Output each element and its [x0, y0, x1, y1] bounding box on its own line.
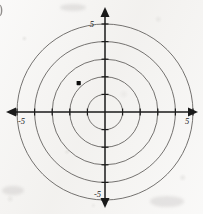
y-axis-top-label: 5	[90, 19, 94, 29]
y-axis	[101, 7, 110, 208]
x-axis-left-label: -5	[18, 116, 25, 126]
data-point-marker	[77, 81, 81, 85]
figure-canvas: )	[0, 0, 203, 214]
x-axis-right-label: 5	[185, 116, 189, 126]
polar-plot: 5 -5 -5 5	[0, 0, 203, 214]
x-axis-arrow-left	[6, 108, 16, 117]
y-axis-arrow-top	[101, 7, 110, 17]
y-axis-bottom-label: -5	[94, 189, 101, 199]
x-axis	[6, 108, 198, 117]
